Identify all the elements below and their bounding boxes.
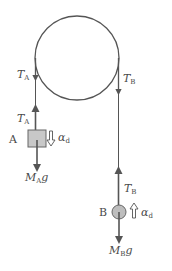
label-tension-a-block: TA xyxy=(17,112,30,126)
accel-b-arrow-icon xyxy=(130,203,138,218)
label-tension-b-top: TB xyxy=(123,72,136,86)
label-accel-b: αd xyxy=(141,206,153,220)
accel-a-arrow-icon xyxy=(47,131,55,146)
label-body-b: B xyxy=(99,206,107,219)
label-tension-b-ball: TB xyxy=(124,182,137,196)
label-body-a: A xyxy=(8,133,18,146)
pulley-wheel xyxy=(35,16,119,100)
label-weight-a: MAg xyxy=(24,171,48,185)
label-tension-a-top: TA xyxy=(17,68,30,82)
label-weight-b: MBg xyxy=(108,244,132,258)
label-accel-a: αd xyxy=(58,131,70,145)
pulley-diagram: TA TB TA A αd MAg TB B αd MBg xyxy=(0,0,172,271)
